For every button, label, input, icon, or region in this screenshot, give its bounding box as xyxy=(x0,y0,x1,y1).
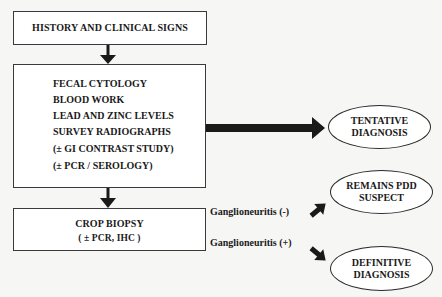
up-right-arrow-icon xyxy=(307,198,331,221)
down-arrow-icon xyxy=(100,45,116,64)
down-arrow-icon xyxy=(100,188,116,208)
arrows-layer xyxy=(0,0,442,297)
down-right-arrow-icon xyxy=(307,243,331,266)
right-arrow-icon xyxy=(206,117,325,139)
